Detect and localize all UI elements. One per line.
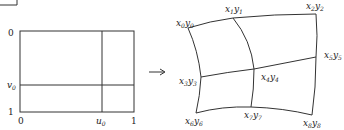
point-label-5: x5y5 (324, 50, 342, 61)
patch-edge-top (188, 14, 316, 28)
parameter-domain: 0 v0 1 0 u0 1 (7, 28, 137, 127)
physical-patch: x0y0 x1y1 x2y2 x3y3 x4y4 x5y5 x6y6 x7y7 … (176, 1, 342, 129)
frame-fragment (0, 0, 17, 5)
mapping-arrow-icon (149, 69, 165, 75)
point-label-6: x6y6 (185, 116, 203, 127)
point-label-4: x4y4 (261, 72, 279, 83)
patch-curve-u0 (233, 18, 254, 107)
u-axis-label-left: 0 (18, 116, 24, 126)
u-axis-label-right: 1 (131, 116, 137, 126)
diagram-svg: 0 v0 1 0 u0 1 x0y0 (0, 0, 344, 130)
v-axis-label-mid: v0 (7, 80, 16, 91)
patch-curve-v0 (201, 57, 316, 77)
point-label-7: x7y7 (244, 110, 262, 121)
v-axis-label-top: 0 (8, 28, 14, 38)
point-label-3: x3y3 (179, 76, 197, 87)
point-label-2: x2y2 (306, 1, 324, 12)
v-axis-label-bottom: 1 (8, 107, 14, 117)
patch-edge-left (188, 28, 201, 113)
patch-edge-right (312, 14, 317, 115)
point-label-1: x1y1 (225, 4, 243, 15)
u-axis-label-mid: u0 (96, 116, 106, 127)
diagram-canvas: 0 v0 1 0 u0 1 x0y0 (0, 0, 344, 130)
point-label-8: x8y8 (303, 118, 321, 129)
unit-square (20, 31, 134, 112)
point-label-0: x0y0 (176, 18, 194, 29)
